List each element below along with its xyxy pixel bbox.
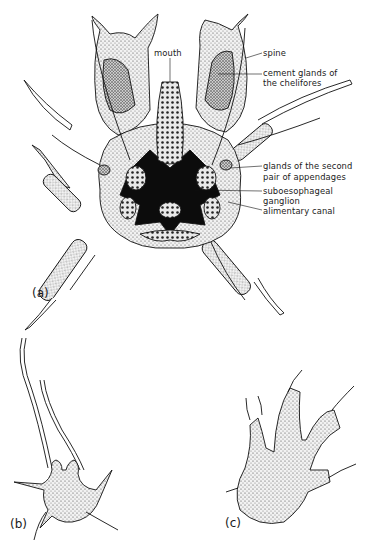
- panel-label-c: (c): [225, 516, 241, 530]
- panel-b-drawing: [14, 338, 118, 540]
- panel-label-a: (a): [32, 286, 49, 300]
- leg-left-lower: [25, 237, 95, 330]
- label-cement-glands-line2: the chelifores: [263, 78, 321, 88]
- label-alimentary-canal: alimentary canal: [263, 206, 335, 216]
- alimentary-canal: [159, 202, 181, 218]
- leg-right-lower: [199, 237, 284, 315]
- label-suboesophageal-line1: suboesophageal: [263, 186, 333, 196]
- leg-left-upper: [24, 80, 100, 214]
- label-spine: spine: [263, 48, 286, 58]
- panel-c-drawing: [226, 370, 356, 524]
- larva-c-body: [237, 388, 340, 524]
- gland-right: [196, 166, 216, 190]
- label-mouth: mouth: [154, 48, 182, 58]
- larva-b-body: [14, 460, 112, 528]
- label-glands-second-line1: glands of the second: [263, 161, 352, 171]
- panel-label-b: (b): [10, 517, 27, 531]
- label-suboesophageal-line2: ganglion: [263, 196, 300, 206]
- label-cement-glands-line1: cement glands of: [263, 68, 337, 78]
- label-glands-second-line2: pair of appendages: [263, 172, 346, 182]
- proboscis: [157, 82, 184, 164]
- leg-right-upper: [229, 80, 352, 163]
- gland-left: [126, 166, 146, 190]
